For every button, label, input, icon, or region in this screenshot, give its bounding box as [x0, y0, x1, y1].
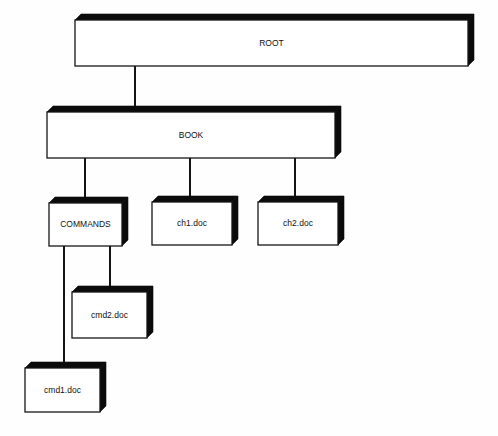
node-cmd1-label: cmd1.doc	[44, 385, 82, 395]
node-commands-right-bevel	[122, 197, 128, 246]
node-book[interactable]: BOOK	[47, 106, 341, 158]
node-root[interactable]: ROOT	[75, 14, 474, 66]
node-commands-top-bevel	[49, 197, 128, 203]
nodes-layer: ROOTBOOKCOMMANDSch1.docch2.doccmd2.doccm…	[25, 14, 474, 412]
node-cmd2-top-bevel	[72, 286, 153, 292]
node-book-label: BOOK	[179, 130, 204, 140]
node-ch1-top-bevel	[152, 196, 238, 202]
node-cmd1[interactable]: cmd1.doc	[25, 362, 106, 412]
diagram-canvas: ROOTBOOKCOMMANDSch1.docch2.doccmd2.doccm…	[0, 0, 498, 436]
node-ch1[interactable]: ch1.doc	[152, 196, 238, 245]
node-root-label: ROOT	[259, 38, 284, 48]
node-cmd2-right-bevel	[147, 286, 153, 338]
node-book-right-bevel	[335, 106, 341, 158]
node-ch2[interactable]: ch2.doc	[258, 196, 344, 245]
node-cmd1-top-bevel	[25, 362, 106, 368]
node-book-top-bevel	[47, 106, 341, 112]
node-root-right-bevel	[468, 14, 474, 66]
node-ch1-label: ch1.doc	[177, 218, 208, 228]
node-commands-label: COMMANDS	[60, 219, 111, 229]
node-ch2-label: ch2.doc	[283, 218, 314, 228]
node-cmd1-right-bevel	[100, 362, 106, 412]
node-ch2-right-bevel	[338, 196, 344, 245]
node-cmd2[interactable]: cmd2.doc	[72, 286, 153, 338]
node-commands[interactable]: COMMANDS	[49, 197, 128, 246]
directory-tree-diagram: ROOTBOOKCOMMANDSch1.docch2.doccmd2.doccm…	[0, 0, 498, 436]
node-ch2-top-bevel	[258, 196, 344, 202]
node-root-top-bevel	[75, 14, 474, 20]
node-ch1-right-bevel	[232, 196, 238, 245]
node-cmd2-label: cmd2.doc	[91, 310, 129, 320]
